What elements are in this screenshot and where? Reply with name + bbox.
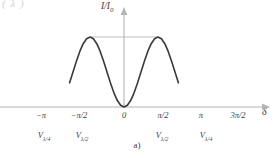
y-axis-arrowhead [121,7,128,15]
x-tick-label-pi-2: π/2 [142,110,184,120]
axes-group [0,7,270,110]
x-tick-label-zero: 0 [109,110,139,120]
x-tick-label-neg-pi-2: −π/2 [55,110,103,120]
figure-panel-a: ( λ ) I/I0 δ −π −π/2 0 π/2 π 3π/2 Vλ/4 V… [0,0,274,158]
x-tick-label-3pi-2: 3π/2 [216,110,260,120]
figure-caption: a) [0,140,274,150]
x-tick-label-pi: π [185,110,217,120]
x-axis-arrowhead [262,104,270,111]
